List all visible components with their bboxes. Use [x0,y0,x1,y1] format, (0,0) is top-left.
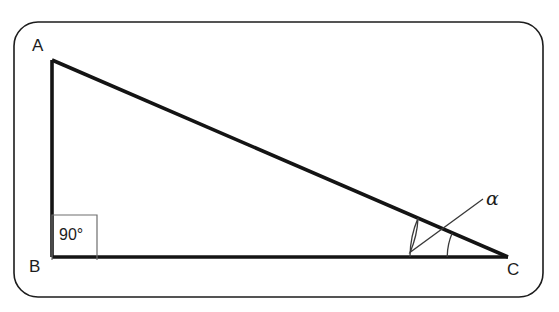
triangle-side-ca [52,60,508,257]
angle-alpha-label: α [486,187,499,209]
angle-alpha-leader-line [410,199,483,252]
vertex-label-b: B [29,257,40,276]
vertex-label-c: C [507,260,519,279]
angle-alpha-inner-arc [447,233,452,257]
geometry-figure-canvas: A B C 90° α [0,0,559,312]
right-angle-value-label: 90° [59,226,83,243]
triangle-diagram-svg: A B C 90° α [0,0,559,312]
vertex-label-a: A [32,36,44,55]
